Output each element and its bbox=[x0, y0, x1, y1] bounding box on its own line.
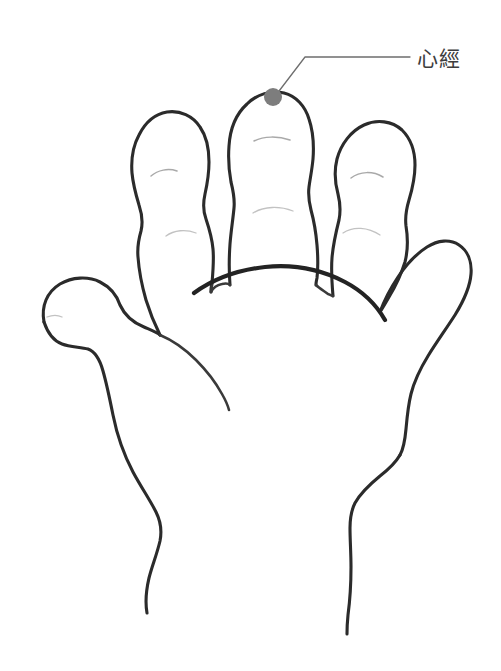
thumb-web-crease bbox=[160, 335, 229, 410]
diagram-canvas: 心經 bbox=[0, 0, 501, 671]
middle-crease-lower bbox=[253, 207, 293, 213]
thumb-lower-and-left-palm-outline bbox=[44, 322, 161, 613]
index-middle-valley bbox=[211, 284, 230, 292]
index-finger-outline bbox=[132, 112, 214, 335]
thumb-crease bbox=[47, 316, 62, 318]
little-finger-outline bbox=[380, 241, 471, 455]
index-crease-upper bbox=[151, 170, 177, 176]
middle-ring-valley bbox=[316, 285, 333, 296]
index-crease-lower bbox=[166, 231, 196, 236]
hand-illustration bbox=[0, 0, 501, 671]
middle-finger-outline bbox=[229, 92, 318, 285]
annotation-label: 心經 bbox=[417, 49, 461, 70]
ring-crease-upper bbox=[351, 173, 383, 178]
leader-line bbox=[276, 57, 410, 95]
annotation-group bbox=[264, 57, 410, 106]
hand-outline-group bbox=[43, 92, 471, 634]
ring-crease-lower bbox=[343, 228, 380, 235]
middle-crease-upper bbox=[254, 137, 290, 141]
knuckle-arc bbox=[194, 266, 385, 320]
right-palm-edge-outline bbox=[347, 455, 400, 634]
acupressure-point-dot[interactable] bbox=[264, 88, 282, 106]
